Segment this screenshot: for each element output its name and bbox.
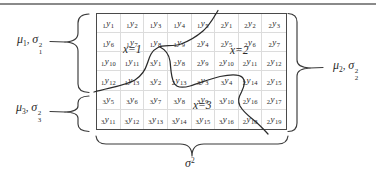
- group-prefix-subscript: 2: [267, 119, 270, 126]
- observation-variable: y: [106, 95, 110, 104]
- observation-variable: y: [128, 76, 132, 85]
- group-prefix-subscript: 2: [172, 80, 175, 87]
- observation-variable: y: [154, 38, 158, 47]
- observation-index-subscript: 18: [251, 119, 258, 126]
- observation-index-subscript: 5: [111, 99, 114, 106]
- sigma-subscript: 1: [39, 49, 43, 56]
- observation-variable: y: [246, 115, 250, 124]
- group-prefix-subscript: 1: [173, 22, 176, 29]
- observation-variable: y: [105, 115, 109, 124]
- observation-variable: y: [248, 19, 252, 28]
- data-grid: 1y11y21y31y41y52y12y22y31y61y71y81y92y42…: [96, 13, 287, 130]
- observation-variable: y: [201, 38, 205, 47]
- group-prefix-subscript: 2: [221, 22, 224, 29]
- connector-dash-group2: [310, 68, 323, 69]
- group-prefix-subscript: 3: [150, 99, 153, 106]
- group-prefix-subscript: 3: [150, 80, 153, 87]
- group-prefix-subscript: 1: [150, 41, 153, 48]
- observation-index-subscript: 15: [204, 119, 211, 126]
- observation-variable: y: [176, 76, 180, 85]
- group2-stats-label: μ2, σ22: [333, 59, 358, 81]
- grid-cell: 1y5: [192, 14, 216, 33]
- mu-subscript: 3: [22, 105, 26, 118]
- observation-variable: y: [154, 95, 158, 104]
- sigma-symbol: σ: [32, 32, 38, 46]
- region-label-x3: x=3: [193, 99, 212, 111]
- observation-index-subscript: 9: [205, 61, 208, 68]
- observation-variable: y: [177, 57, 181, 66]
- grid-cell: 1y6: [97, 33, 121, 52]
- observation-variable: y: [271, 76, 275, 85]
- observation-index-subscript: 6: [111, 41, 114, 48]
- group-prefix-subscript: 2: [219, 61, 222, 68]
- group3-stats-label: μ3, σ23: [16, 101, 41, 123]
- group-prefix-subscript: 3: [101, 119, 104, 126]
- grid-cell: 1y12: [97, 71, 121, 90]
- grid-cell: 2y4: [192, 33, 216, 52]
- observation-variable: y: [224, 76, 228, 85]
- observation-variable: y: [130, 95, 134, 104]
- observation-variable: y: [105, 57, 109, 66]
- observation-variable: y: [128, 115, 132, 124]
- observation-index-subscript: 10: [227, 61, 234, 68]
- figure-canvas: 1y11y21y31y41y52y12y22y31y61y71y81y92y42…: [0, 0, 376, 182]
- grid-cell: 3y4: [215, 71, 239, 90]
- grid-cell: 2y2: [239, 14, 263, 33]
- observation-index-subscript: 12: [109, 80, 116, 87]
- sigma-scripts: 21: [39, 42, 43, 55]
- group-prefix-subscript: 3: [150, 61, 153, 68]
- group-prefix-subscript: 3: [126, 99, 129, 106]
- overall-variance-label: σ2: [185, 157, 195, 171]
- grid-cell: 2y18: [239, 110, 263, 129]
- group-prefix-subscript: 2: [244, 22, 247, 29]
- group-prefix-subscript: 3: [173, 99, 176, 106]
- observation-variable: y: [201, 57, 205, 66]
- group-prefix-subscript: 2: [267, 80, 270, 87]
- observation-index-subscript: 15: [275, 80, 282, 87]
- grid-cell: 3y7: [144, 91, 168, 110]
- observation-index-subscript: 12: [275, 61, 282, 68]
- observation-index-subscript: 11: [251, 61, 257, 68]
- observation-index-subscript: 8: [182, 99, 185, 106]
- grid-cell: 3y14: [168, 110, 192, 129]
- observation-index-subscript: 3: [277, 22, 280, 29]
- observation-variable: y: [271, 95, 275, 104]
- group-prefix-subscript: 1: [126, 22, 129, 29]
- left-brace-group3: [65, 96, 89, 132]
- group-prefix-subscript: 2: [243, 119, 246, 126]
- group-prefix-subscript: 1: [150, 22, 153, 29]
- observation-index-subscript: 9: [182, 41, 185, 48]
- group-prefix-subscript: 3: [197, 80, 200, 87]
- sigma-symbol: σ: [31, 100, 37, 114]
- group-prefix-subscript: 2: [243, 99, 246, 106]
- grid-cell: 3y15: [192, 110, 216, 129]
- observation-variable: y: [201, 76, 205, 85]
- observation-index-subscript: 2: [158, 80, 161, 87]
- observation-index-subscript: 1: [111, 22, 114, 29]
- group-prefix-subscript: 3: [148, 119, 151, 126]
- sigma-symbol: σ: [348, 58, 354, 72]
- grid-cell: 2y13: [168, 71, 192, 90]
- observation-index-subscript: 7: [277, 41, 280, 48]
- group-prefix-subscript: 2: [267, 61, 270, 68]
- grid-cell: 2y3: [262, 14, 286, 33]
- observation-index-subscript: 1: [158, 61, 161, 68]
- observation-variable: y: [105, 76, 109, 85]
- observation-index-subscript: 1: [229, 22, 232, 29]
- mu-subscript: 1: [23, 37, 27, 50]
- group-prefix-subscript: 1: [101, 61, 104, 68]
- observation-variable: y: [154, 19, 158, 28]
- observation-index-subscript: 19: [275, 119, 282, 126]
- observation-index-subscript: 16: [251, 99, 258, 106]
- observation-index-subscript: 7: [158, 99, 161, 106]
- observation-variable: y: [154, 76, 158, 85]
- observation-variable: y: [199, 115, 203, 124]
- observation-index-subscript: 6: [134, 99, 137, 106]
- sigma-subscript: 2: [355, 75, 359, 82]
- left-brace-group1: [65, 14, 89, 93]
- group-prefix-subscript: 2: [243, 61, 246, 68]
- observation-variable: y: [247, 57, 251, 66]
- observation-variable: y: [201, 19, 205, 28]
- mu-subscript: 2: [339, 63, 343, 76]
- grid-cell: 1y3: [144, 14, 168, 33]
